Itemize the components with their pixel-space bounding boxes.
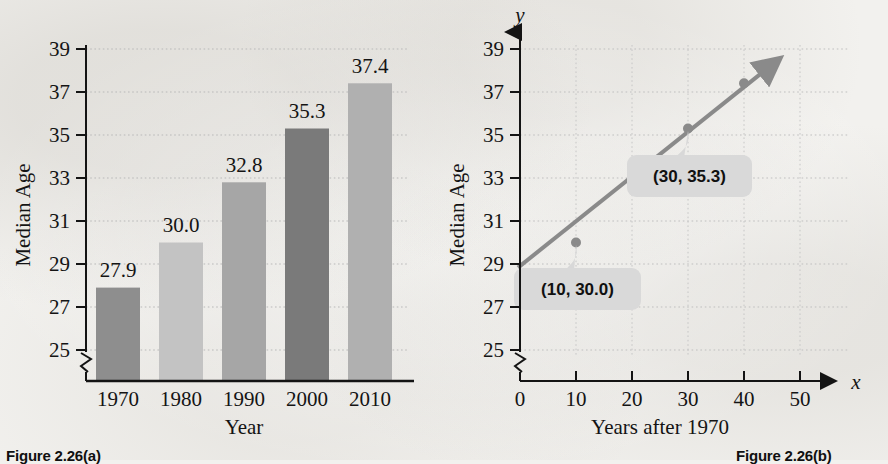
- figure-a-bar-chart: Median Age 27.9 30.0 32.8 35.3 37.4: [0, 0, 444, 460]
- xtick-label-2000: 2000: [286, 387, 328, 411]
- ytick-label-33: 33: [49, 166, 70, 190]
- bar-chart-y-axis-title: Median Age: [11, 163, 35, 266]
- ytick-label-37: 37: [483, 80, 504, 104]
- y-axis-break-symbol: [515, 353, 525, 372]
- ytick-label-29: 29: [483, 252, 504, 276]
- annotation-label-30: (30, 35.3): [653, 167, 726, 186]
- bar-1970: [96, 288, 140, 381]
- ytick-label-37: 37: [49, 80, 70, 104]
- scatter-y-axis-title: Median Age: [445, 163, 469, 266]
- bar-1990: [222, 182, 266, 381]
- xtick-label-0: 0: [515, 387, 526, 411]
- figure-b-scatter-plot: Median Age: [444, 0, 888, 460]
- bar-2010: [348, 83, 392, 381]
- scatter-x-variable-label: x: [850, 370, 861, 394]
- ytick-label-39: 39: [49, 37, 70, 61]
- bar-chart-x-tick-labels: 1970 1980 1990 2000 2010: [97, 387, 391, 411]
- figure-a-caption: Figure 2.26(a): [6, 447, 101, 464]
- scatter-x-tick-labels: 0 10 20 30 40 50: [515, 387, 811, 411]
- bar-value-1970: 27.9: [100, 258, 137, 282]
- ytick-label-27: 27: [49, 295, 70, 319]
- scatter-x-axis-title: Years after 1970: [591, 415, 729, 439]
- xtick-label-20: 20: [622, 387, 643, 411]
- xtick-label-1970: 1970: [97, 387, 139, 411]
- bar-value-1990: 32.8: [226, 153, 263, 177]
- bar-value-2010: 37.4: [352, 54, 389, 78]
- bar-chart-svg: Median Age 27.9 30.0 32.8 35.3 37.4: [0, 0, 444, 440]
- bar-chart-bars: [96, 83, 392, 381]
- xtick-label-30: 30: [678, 387, 699, 411]
- bar-2000: [285, 129, 329, 382]
- y-axis-break-symbol: [81, 353, 91, 372]
- ytick-label-35: 35: [483, 123, 504, 147]
- figure-b-caption: Figure 2.26(b): [736, 447, 832, 464]
- bar-value-1980: 30.0: [163, 213, 200, 237]
- xtick-label-40: 40: [734, 387, 755, 411]
- scatter-plot-svg: Median Age: [444, 0, 888, 440]
- scatter-y-axis: [510, 32, 525, 381]
- scatter-y-variable-label: y: [513, 3, 525, 27]
- bar-chart-y-axis: [76, 45, 91, 381]
- ytick-label-31: 31: [49, 209, 70, 233]
- ytick-label-31: 31: [483, 209, 504, 233]
- bar-chart-x-axis-title: Year: [225, 415, 264, 439]
- bar-value-2000: 35.3: [289, 99, 326, 123]
- ytick-label-27: 27: [483, 295, 504, 319]
- xtick-label-10: 10: [566, 387, 587, 411]
- bar-chart-y-tick-labels: 39 37 35 33 31 29 27 25: [49, 37, 70, 362]
- ytick-label-39: 39: [483, 37, 504, 61]
- annotation-30-35-3: (30, 35.3): [627, 131, 752, 197]
- scatter-x-axis: [520, 371, 836, 381]
- xtick-label-50: 50: [790, 387, 811, 411]
- xtick-label-2010: 2010: [349, 387, 391, 411]
- xtick-label-1990: 1990: [223, 387, 265, 411]
- data-point-40-37-4: [739, 78, 749, 88]
- ytick-label-25: 25: [483, 338, 504, 362]
- ytick-label-25: 25: [49, 338, 70, 362]
- ytick-label-29: 29: [49, 252, 70, 276]
- ytick-label-35: 35: [49, 123, 70, 147]
- scatter-y-tick-labels: 39 37 35 33 31 29 27 25: [483, 37, 504, 362]
- xtick-label-1980: 1980: [160, 387, 202, 411]
- bar-1980: [159, 243, 203, 382]
- annotation-label-10: (10, 30.0): [541, 280, 614, 299]
- ytick-label-33: 33: [483, 166, 504, 190]
